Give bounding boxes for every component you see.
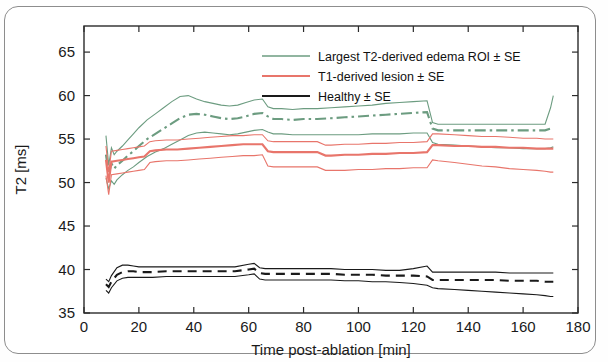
x-tick-label: 80 xyxy=(295,318,312,335)
x-tick-label: 0 xyxy=(80,318,88,335)
x-tick-label: 100 xyxy=(346,318,371,335)
y-tick-label: 45 xyxy=(58,217,75,234)
x-tick-label: 40 xyxy=(185,318,202,335)
series-layer xyxy=(106,96,553,297)
x-tick-label: 180 xyxy=(565,318,590,335)
legend-label: Healthy ± SE xyxy=(318,90,391,104)
series-lower-se xyxy=(106,274,553,297)
x-tick-label: 20 xyxy=(131,318,148,335)
figure-container: 02040608010012014016018035404550556065 L… xyxy=(0,0,608,362)
series-lower-se xyxy=(106,129,553,188)
x-axis-title: Time post-ablation [min] xyxy=(251,341,411,358)
x-tick-label: 60 xyxy=(240,318,257,335)
legend-label: T1-derived lesion ± SE xyxy=(318,70,444,84)
series-mean xyxy=(106,112,553,174)
y-axis-title: T2 [ms] xyxy=(12,144,29,194)
series-dashed xyxy=(106,263,553,296)
series-lower-se xyxy=(106,155,553,195)
y-tick-label: 40 xyxy=(58,261,75,278)
y-tick-label: 35 xyxy=(58,304,75,321)
x-tick-label: 140 xyxy=(456,318,481,335)
y-tick-label: 65 xyxy=(58,43,75,60)
y-tick-label: 60 xyxy=(58,87,75,104)
legend-label: Largest T2-derived edema ROI ± SE xyxy=(318,50,521,64)
chart-plot: 02040608010012014016018035404550556065 L… xyxy=(0,0,608,362)
tick-label-layer: 02040608010012014016018035404550556065 xyxy=(58,43,590,335)
legend-layer: Largest T2-derived edema ROI ± SET1-deri… xyxy=(262,50,521,104)
x-tick-label: 160 xyxy=(511,318,536,335)
series-solid xyxy=(106,134,553,195)
series-mean xyxy=(106,269,553,287)
y-tick-label: 50 xyxy=(58,174,75,191)
series-dash-dot xyxy=(106,96,553,189)
y-tick-label: 55 xyxy=(58,130,75,147)
series-mean xyxy=(106,144,553,182)
x-tick-label: 120 xyxy=(401,318,426,335)
